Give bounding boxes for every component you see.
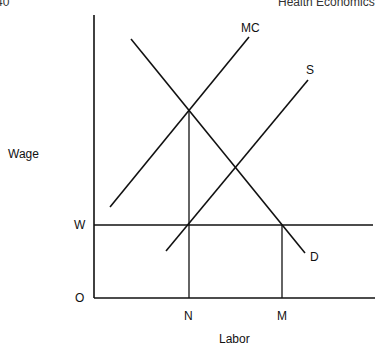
mc-label: MC <box>241 21 260 35</box>
running-title: Health Economics <box>278 0 375 9</box>
wage-level-label: W <box>74 218 86 232</box>
d-curve <box>131 39 305 253</box>
m-label: M <box>277 309 287 323</box>
page-number: 40 <box>0 0 10 9</box>
mc-curve <box>110 37 249 207</box>
origin-label: O <box>75 291 84 305</box>
y-axis-label: Wage <box>8 147 39 161</box>
n-label: N <box>184 309 193 323</box>
d-label: D <box>310 250 319 264</box>
x-axis-label: Labor <box>219 332 250 346</box>
monopsony-diagram: 40 Health Economics MC S D Wage W O N M … <box>0 0 381 350</box>
page: 40 Health Economics MC S D Wage W O N M … <box>0 0 381 350</box>
s-label: S <box>306 63 314 77</box>
